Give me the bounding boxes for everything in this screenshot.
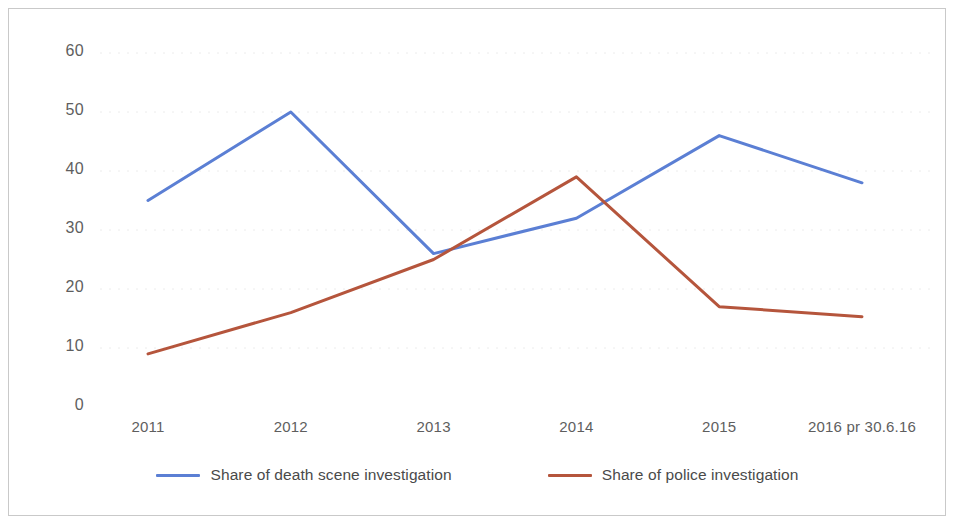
x-axis-tick-label: 2016 pr 30.6.16 [777,418,947,435]
y-axis-tick-label: 20 [28,278,84,296]
y-axis-tick-label: 10 [28,337,84,355]
y-axis-tick-label: 30 [28,219,84,237]
legend-line-swatch-icon [156,474,200,477]
y-axis-tick-label: 60 [28,42,84,60]
y-axis-tick-label: 40 [28,160,84,178]
chart-page: 6050403020100 201120122013201420152016 p… [0,0,955,529]
legend-label: Share of police investigation [602,466,799,484]
y-axis-tick-label: 50 [28,101,84,119]
legend-entry-1[interactable]: Share of death scene investigation [156,466,451,484]
legend-label: Share of death scene investigation [210,466,451,484]
chart-frame [8,8,946,516]
y-axis-tick-label: 0 [28,396,84,414]
legend-line-swatch-icon [548,474,592,477]
legend-entry-2[interactable]: Share of police investigation [548,466,799,484]
chart-legend: Share of death scene investigationShare … [0,466,955,484]
